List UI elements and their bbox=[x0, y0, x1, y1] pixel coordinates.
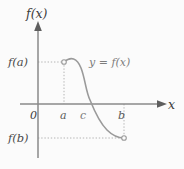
x-tick-label-b: b bbox=[118, 110, 125, 121]
right-open-endpoint-marker bbox=[122, 136, 127, 141]
x-tick-label-c: c bbox=[80, 110, 86, 121]
y-value-label-fa: f(a) bbox=[8, 57, 28, 69]
y-axis-arrowhead-icon bbox=[34, 21, 42, 31]
x-tick-label-a: a bbox=[60, 110, 67, 121]
origin-label: 0 bbox=[30, 110, 37, 121]
function-graph-figure: f(x) x f(a) f(b) 0 a c b y = f(x) bbox=[0, 0, 184, 169]
curve-equation-label: y = f(x) bbox=[89, 57, 130, 68]
x-axis-arrowhead-icon bbox=[157, 100, 167, 108]
y-value-label-fb: f(b) bbox=[8, 133, 29, 145]
y-axis-label: f(x) bbox=[26, 8, 47, 21]
x-axis-label: x bbox=[168, 99, 175, 112]
function-curve bbox=[64, 59, 124, 138]
left-open-endpoint-marker bbox=[62, 60, 67, 65]
